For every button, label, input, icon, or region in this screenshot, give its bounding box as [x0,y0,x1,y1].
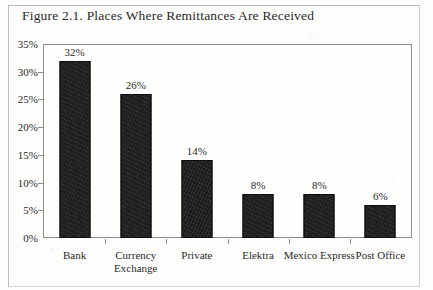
bar-value-label: 8% [251,179,266,191]
y-axis-tick-mark [38,99,43,100]
x-axis-category-label: Post Office [337,249,423,262]
x-axis-tick-mark [289,239,290,244]
y-axis-tick-label: 25% [8,93,38,105]
x-axis-tick-mark [166,239,167,244]
x-axis-tick-mark [228,239,229,244]
y-axis: 0%5%10%15%20%25%30%35% [8,0,38,290]
bar [120,94,151,238]
y-axis-tick-label: 30% [8,66,38,78]
bar [365,205,396,238]
bar-value-label: 6% [373,190,388,202]
y-axis-tick-label: 15% [8,149,38,161]
y-axis-tick-label: 20% [8,121,38,133]
bar-value-label: 8% [312,179,327,191]
bar [59,61,90,238]
bar [304,194,335,238]
y-axis-tick-mark [38,183,43,184]
bar-value-label: 32% [64,46,84,58]
scanned-page: Figure 2.1. Places Where Remittances Are… [0,0,433,290]
y-axis-tick-mark [38,72,43,73]
y-axis-tick-label: 5% [8,204,38,216]
y-axis-tick-mark [38,210,43,211]
y-axis-tick-mark [38,155,43,156]
bar-chart: 0%5%10%15%20%25%30%35% 32%26%14%8%8%6% B… [0,0,433,290]
bar-group: 8% [228,45,289,238]
y-axis-tick-label: 10% [8,177,38,189]
bar [181,160,212,238]
plot-area: 32%26%14%8%8%6% [44,45,411,238]
x-axis-tick-mark [105,239,106,244]
bar-group: 26% [105,45,166,238]
y-axis-tick-label: 35% [8,38,38,50]
y-axis-tick-mark [38,127,43,128]
bar-group: 6% [350,45,411,238]
x-axis-tick-mark [350,239,351,244]
bar [243,194,274,238]
bar-group: 14% [166,45,227,238]
bar-value-label: 14% [187,145,207,157]
bar-group: 32% [44,45,105,238]
bar-value-label: 26% [126,79,146,91]
y-axis-tick-label: 0% [8,232,38,244]
bar-group: 8% [289,45,350,238]
